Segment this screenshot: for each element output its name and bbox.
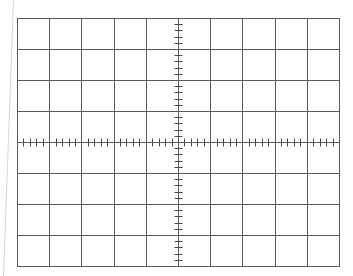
oscilloscope-graticule bbox=[0, 0, 353, 276]
page-edge-line bbox=[4, 0, 14, 276]
